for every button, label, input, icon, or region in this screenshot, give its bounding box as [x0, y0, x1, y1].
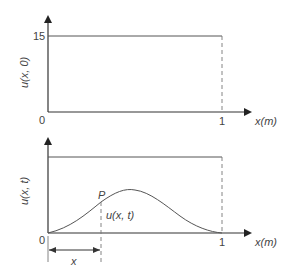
top-x-tick-1: 1 — [219, 115, 225, 127]
top-x-axis-label: x(m) — [254, 115, 277, 127]
point-value-label: u(x, t) — [106, 209, 134, 221]
point-p-label: P — [98, 189, 106, 201]
bottom-y-axis-label: u(x, t) — [18, 177, 30, 205]
temperature-profile-curve — [48, 190, 222, 234]
bottom-x-axis-label: x(m) — [254, 236, 277, 248]
bottom-plot: P u(x, t) 0 1 x(m) x u(x, t) — [18, 139, 277, 267]
top-y-axis-label: u(x, 0) — [18, 56, 30, 88]
top-origin-label: 0 — [39, 114, 45, 126]
top-plot: 15 0 1 x(m) u(x, 0) — [18, 17, 277, 127]
diagram-canvas: 15 0 1 x(m) u(x, 0) P u(x, t) 0 1 x(m) x… — [0, 0, 288, 273]
bottom-origin-label: 0 — [39, 234, 45, 246]
x-dimension-label: x — [70, 255, 77, 267]
top-y-tick-15: 15 — [33, 30, 45, 42]
bottom-x-tick-1: 1 — [219, 236, 225, 248]
